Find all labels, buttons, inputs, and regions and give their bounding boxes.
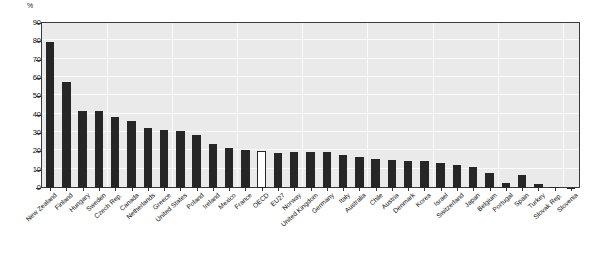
bar-hungary [78, 111, 86, 188]
x-axis-tick-mark [359, 188, 360, 191]
x-axis-tick-label: OECD [252, 192, 271, 210]
bar-japan [469, 167, 477, 188]
x-axis-tick-mark [278, 188, 279, 191]
bar-poland [192, 135, 200, 188]
x-axis-tick-mark [197, 188, 198, 191]
bar-israel [436, 163, 444, 188]
y-axis-tick-mark [36, 188, 41, 189]
x-axis-tick-mark [66, 188, 67, 191]
x-axis-tick-mark [473, 188, 474, 191]
y-axis-tick-mark [36, 41, 41, 42]
y-axis-tick-mark [36, 60, 41, 61]
bar-eu27 [274, 153, 282, 188]
x-axis-tick-mark [164, 188, 165, 191]
y-axis-tick-mark [36, 96, 41, 97]
y-axis-tick-mark [36, 78, 41, 79]
x-axis-tick-mark [148, 188, 149, 191]
x-axis-tick-mark [294, 188, 295, 191]
bar-korea [420, 161, 428, 188]
bar-canada [127, 121, 135, 188]
y-axis-tick-mark [36, 115, 41, 116]
x-axis-tick-mark [424, 188, 425, 191]
x-axis-tick-mark [311, 188, 312, 191]
y-axis-tick-mark [36, 23, 41, 24]
x-axis-tick-mark [245, 188, 246, 191]
x-axis-tick-label: Korea [415, 192, 432, 209]
bar-australia [355, 157, 363, 188]
bar-italy [339, 155, 347, 188]
bar-finland [62, 82, 70, 188]
y-axis-tick-mark [36, 133, 41, 134]
x-axis-tick-mark [441, 188, 442, 191]
x-axis-tick-mark [83, 188, 84, 191]
x-axis-tick-mark [571, 188, 572, 191]
x-axis-tick-mark [132, 188, 133, 191]
x-axis-tick-mark [180, 188, 181, 191]
bar-greece [160, 130, 168, 188]
x-axis-tick-mark [229, 188, 230, 191]
bar-series [42, 23, 579, 188]
x-axis-tick-label: Poland [185, 192, 205, 211]
x-axis-tick-mark [213, 188, 214, 191]
bar-chart: % 0102030405060708090 New ZealandFinland… [0, 0, 597, 256]
y-axis-tick-mark [36, 170, 41, 171]
x-axis-tick-mark [376, 188, 377, 191]
x-axis-tick-mark [115, 188, 116, 191]
bar-new-zealand [46, 42, 54, 188]
x-axis-tick-mark [506, 188, 507, 191]
x-axis-tick-mark [343, 188, 344, 191]
x-axis-tick-mark [522, 188, 523, 191]
bar-belgium [485, 173, 493, 188]
x-axis-tick-mark [327, 188, 328, 191]
bar-ireland [209, 144, 217, 188]
bar-chile [371, 159, 379, 188]
x-axis-tick-label: France [234, 192, 254, 211]
x-axis-tick-mark [392, 188, 393, 191]
x-axis-tick-label: Mexico [218, 192, 238, 211]
bar-mexico [225, 148, 233, 188]
bar-germany [323, 152, 331, 188]
y-axis-tick-mark [36, 151, 41, 152]
bar-norway [290, 152, 298, 188]
bar-denmark [404, 161, 412, 189]
bar-spain [518, 175, 526, 188]
bar-oecd [257, 151, 265, 188]
x-axis-tick-mark [490, 188, 491, 191]
x-axis-tick-mark [262, 188, 263, 191]
bar-united-states [176, 131, 184, 188]
y-axis: 0102030405060708090 [0, 22, 41, 188]
bar-netherlands [144, 128, 152, 188]
bar-czech-rep [111, 117, 119, 189]
x-axis-tick-mark [408, 188, 409, 191]
x-axis-tick-label: New Zealand [25, 192, 58, 223]
bar-austria [388, 160, 396, 188]
bar-switzerland [453, 165, 461, 188]
y-axis-unit-label: % [27, 2, 33, 9]
bar-united-kingdom [306, 152, 314, 188]
bar-france [241, 150, 249, 188]
x-axis-tick-mark [538, 188, 539, 191]
x-axis-tick-mark [50, 188, 51, 191]
bar-sweden [95, 111, 103, 188]
x-axis-tick-mark [99, 188, 100, 191]
x-axis-tick-mark [555, 188, 556, 191]
x-axis-labels: New ZealandFinlandHungarySwedenCzech Rep… [42, 192, 579, 254]
x-axis-tick-mark [457, 188, 458, 191]
